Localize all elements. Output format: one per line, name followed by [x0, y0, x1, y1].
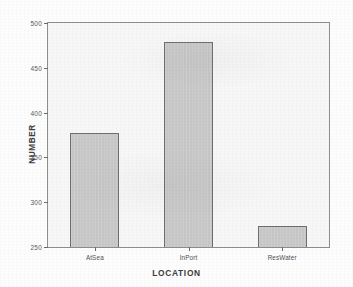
y-axis-tick: 350 — [48, 157, 49, 158]
x-tick-label: ResWater — [268, 254, 297, 261]
x-tick-label: AtSea — [86, 254, 104, 261]
y-tick-label: 300 — [31, 199, 42, 206]
y-tick-label: 500 — [31, 20, 42, 27]
x-tick-mark — [189, 247, 190, 251]
y-tick-label: 250 — [31, 244, 42, 251]
y-tick-label: 400 — [31, 109, 42, 116]
y-tick-label: 450 — [31, 64, 42, 71]
y-tick-mark — [44, 247, 48, 248]
plot-frame: 250300350400450500AtSeaInPortResWater — [47, 22, 330, 248]
x-axis-tick: AtSea — [95, 23, 96, 247]
y-tick-mark — [44, 113, 48, 114]
y-tick-mark — [44, 202, 48, 203]
y-tick-mark — [44, 157, 48, 158]
x-tick-label: InPort — [180, 254, 198, 261]
y-tick-mark — [44, 23, 48, 24]
x-axis-tick: InPort — [189, 23, 190, 247]
y-axis-title: NUMBER — [28, 124, 37, 164]
y-axis-tick: 250 — [48, 247, 49, 248]
x-tick-mark — [282, 247, 283, 251]
y-axis-tick: 450 — [48, 68, 49, 69]
x-axis-title: LOCATION — [0, 268, 353, 278]
y-axis-tick: 300 — [48, 202, 49, 203]
plot-area: 250300350400450500AtSeaInPortResWater — [48, 23, 329, 247]
y-tick-mark — [44, 68, 48, 69]
bar-chart: NUMBER 250300350400450500AtSeaInPortResW… — [0, 0, 353, 287]
x-tick-mark — [95, 247, 96, 251]
x-axis-tick: ResWater — [282, 23, 283, 247]
y-axis-tick: 400 — [48, 113, 49, 114]
y-axis-tick: 500 — [48, 23, 49, 24]
